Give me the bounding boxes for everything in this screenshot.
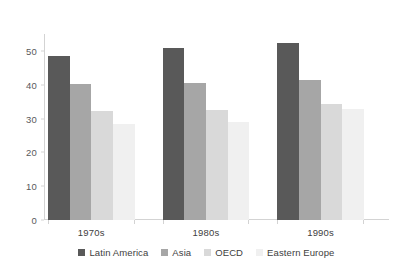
legend-item-latin-america[interactable]: Latin America xyxy=(78,247,148,258)
y-axis-tick-label: 10 xyxy=(26,181,37,192)
y-axis-tick-label: 20 xyxy=(26,147,37,158)
category-label-1990s: 1990s xyxy=(277,227,364,238)
y-axis-tick-mark xyxy=(41,220,44,221)
x-axis-tick-mark xyxy=(277,220,278,224)
bar-group-1980s xyxy=(163,34,250,220)
bar-chart: 01020304050 1970s1980s1990s Latin Americ… xyxy=(0,0,413,274)
bars-row xyxy=(277,34,364,220)
chart-legend: Latin AmericaAsiaOECDEastern Europe xyxy=(0,247,413,258)
bar-asia-1980s[interactable] xyxy=(184,83,206,220)
y-axis-tick-label: 0 xyxy=(32,215,37,226)
bar-eastern-europe-1990s[interactable] xyxy=(342,109,364,220)
bar-oecd-1990s[interactable] xyxy=(321,104,343,220)
bars-row xyxy=(48,34,135,220)
y-axis-tick-mark xyxy=(41,84,44,85)
y-axis-tick-label: 50 xyxy=(26,45,37,56)
x-axis-tick-mark xyxy=(363,220,364,224)
y-axis-tick-mark xyxy=(41,152,44,153)
legend-swatch-icon xyxy=(256,249,263,256)
x-axis-tick-mark xyxy=(163,220,164,224)
legend-swatch-icon xyxy=(161,249,168,256)
bar-asia-1970s[interactable] xyxy=(70,84,92,220)
y-axis-tick-mark xyxy=(41,186,44,187)
bar-group-1990s xyxy=(277,34,364,220)
x-axis-tick-mark xyxy=(134,220,135,224)
bar-latin-america-1980s[interactable] xyxy=(163,48,185,220)
legend-label: OECD xyxy=(215,247,243,258)
legend-label: Eastern Europe xyxy=(267,247,334,258)
x-axis-tick-mark xyxy=(48,220,49,224)
bars-row xyxy=(163,34,250,220)
bar-latin-america-1990s[interactable] xyxy=(277,43,299,220)
x-axis-tick-mark xyxy=(248,220,249,224)
bar-latin-america-1970s[interactable] xyxy=(48,56,70,220)
y-axis-tick-mark xyxy=(41,118,44,119)
category-label-1970s: 1970s xyxy=(48,227,135,238)
bar-asia-1990s[interactable] xyxy=(299,80,321,220)
bar-group-1970s xyxy=(48,34,135,220)
bar-oecd-1970s[interactable] xyxy=(91,111,113,220)
plot-area: 01020304050 xyxy=(44,34,388,220)
legend-label: Latin America xyxy=(89,247,148,258)
legend-item-eastern-europe[interactable]: Eastern Europe xyxy=(256,247,334,258)
category-label-1980s: 1980s xyxy=(163,227,250,238)
y-axis-tick-mark xyxy=(41,50,44,51)
bar-oecd-1980s[interactable] xyxy=(206,110,228,220)
legend-swatch-icon xyxy=(78,249,85,256)
bar-eastern-europe-1970s[interactable] xyxy=(113,124,135,220)
y-axis-tick-label: 40 xyxy=(26,79,37,90)
legend-label: Asia xyxy=(172,247,191,258)
legend-item-asia[interactable]: Asia xyxy=(161,247,191,258)
legend-item-oecd[interactable]: OECD xyxy=(204,247,243,258)
legend-swatch-icon xyxy=(204,249,211,256)
bar-eastern-europe-1980s[interactable] xyxy=(228,122,250,220)
y-axis-tick-label: 30 xyxy=(26,113,37,124)
